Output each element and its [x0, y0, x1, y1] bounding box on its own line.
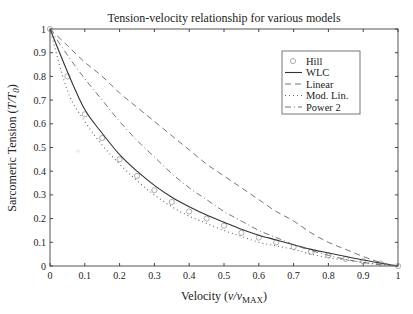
- y-tick-label: 0.3: [34, 189, 47, 200]
- y-tick-label: 0.4: [34, 166, 47, 177]
- y-axis-label: Sarcomeric Tension (T/T0): [5, 84, 21, 211]
- y-axis-label-suffix: ): [5, 84, 19, 88]
- x-tick-label: 0.1: [79, 270, 92, 281]
- x-axis-label-var: v/v: [228, 289, 243, 303]
- chart-canvas: Tension-velocity relationship for variou…: [0, 0, 413, 314]
- legend-label: Mod. Lin.: [306, 90, 348, 101]
- legend-label: Hill: [306, 56, 322, 67]
- y-tick-label: 0.7: [34, 95, 47, 106]
- y-tick-label: 0.2: [34, 213, 47, 224]
- x-tick-label: 0.4: [183, 270, 196, 281]
- x-tick-label: 0.8: [322, 270, 335, 281]
- x-tick-label: 0.3: [148, 270, 161, 281]
- y-tick-label: 0.5: [34, 142, 47, 153]
- legend: HillWLCLinearMod. Lin.Power 2: [282, 51, 360, 114]
- x-tick-label: 0.6: [253, 270, 266, 281]
- x-axis-label-suffix: ): [263, 289, 267, 303]
- x-tick-label: 1: [396, 270, 401, 281]
- x-tick-label: 0.5: [218, 270, 231, 281]
- x-tick-label: 0.7: [287, 270, 300, 281]
- x-axis-label: Velocity (v/vMAX): [181, 289, 267, 305]
- x-tick-label: 0: [48, 270, 53, 281]
- x-axis-label-sub: MAX: [242, 295, 264, 305]
- legend-label: Linear: [306, 79, 334, 90]
- y-axis-label-prefix: Sarcomeric Tension (: [5, 109, 19, 211]
- y-tick-label: 0.6: [34, 118, 47, 129]
- y-tick-label: 0.8: [34, 71, 47, 82]
- legend-label: WLC: [306, 67, 329, 78]
- y-tick-label: 0.9: [34, 47, 47, 58]
- x-axis-label-prefix: Velocity (: [181, 289, 228, 303]
- legend-label: Power 2: [306, 102, 341, 113]
- x-tick-label: 0.2: [113, 270, 126, 281]
- y-tick-label: 0: [41, 261, 46, 272]
- y-tick-label: 0.1: [34, 237, 47, 248]
- chart-title: Tension-velocity relationship for variou…: [107, 11, 340, 25]
- y-axis-label-var: T/T: [5, 91, 19, 109]
- y-tick-label: 1: [41, 24, 46, 35]
- x-tick-label: 0.9: [357, 270, 370, 281]
